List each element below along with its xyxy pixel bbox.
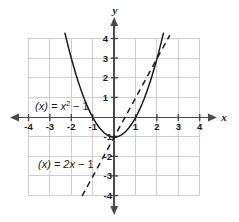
y-tick-label: -4 xyxy=(104,190,113,201)
x-tick-label: -4 xyxy=(24,121,33,132)
graph-figure: -4 -3 -2 -1 1 2 3 4 4 3 2 1 -1 -2 -3 -4 … xyxy=(0,0,239,222)
x-tick-label: -3 xyxy=(46,121,54,132)
x-tick-label: 2 xyxy=(154,121,159,132)
y-tick-label: 1 xyxy=(103,92,109,103)
parabola-eq-prefix: (x) = xyxy=(35,100,60,112)
y-tick-label: -3 xyxy=(104,170,112,181)
y-tick-label: 4 xyxy=(103,33,109,44)
x-tick-label: 1 xyxy=(133,121,139,132)
line-eq-prefix: (x) = 2 xyxy=(38,158,69,170)
parabola-equation-label: (x) = x2 − 1 xyxy=(35,99,89,112)
x-tick-label: 3 xyxy=(176,121,181,132)
x-axis-label: x xyxy=(220,111,227,123)
line-eq-suffix: − 1 xyxy=(75,158,94,170)
y-axis-label: y xyxy=(111,4,118,16)
y-tick-label: 3 xyxy=(103,53,108,64)
y-tick-label: 2 xyxy=(103,72,108,83)
x-tick-label: 4 xyxy=(197,121,203,132)
parabola-eq-suffix: − 1 xyxy=(70,100,89,112)
x-tick-label: -2 xyxy=(67,121,75,132)
coordinate-plane: -4 -3 -2 -1 1 2 3 4 4 3 2 1 -1 -2 -3 -4 … xyxy=(0,0,239,222)
y-tick-label: -2 xyxy=(104,151,112,162)
line-equation-label: (x) = 2x − 1 xyxy=(38,158,94,170)
